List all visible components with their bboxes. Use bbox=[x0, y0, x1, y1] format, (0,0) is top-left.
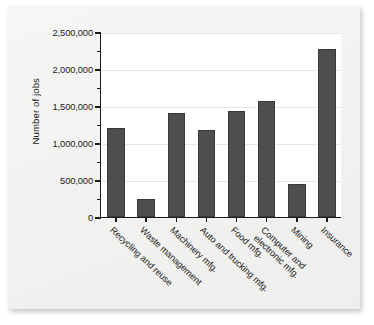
x-tick-label: Insurance bbox=[319, 225, 355, 260]
y-axis-title: Number of jobs bbox=[30, 78, 44, 144]
x-tick-label: Mining bbox=[289, 225, 316, 251]
y-tick-label: 500,000 bbox=[60, 176, 93, 186]
bar bbox=[228, 111, 245, 217]
y-tick-label: 1,000,000 bbox=[53, 139, 93, 149]
bar bbox=[198, 130, 215, 217]
y-tick-label: 1,500,000 bbox=[53, 102, 93, 112]
y-tick-label: 2,500,000 bbox=[53, 28, 93, 38]
plot-area: 2,500,0002,000,0001,500,0001,000,000500,… bbox=[100, 33, 341, 218]
y-tick-label: 0 bbox=[88, 213, 93, 223]
bar-series bbox=[101, 33, 341, 217]
x-axis-labels: Recycling and reuseWaste managementMachi… bbox=[100, 219, 350, 309]
bar bbox=[258, 101, 275, 217]
bar bbox=[168, 113, 185, 217]
chart-canvas: Number of jobs 2,500,0002,000,0001,500,0… bbox=[8, 6, 360, 309]
bar bbox=[137, 199, 154, 217]
bar bbox=[318, 49, 335, 217]
chart-card: Number of jobs 2,500,0002,000,0001,500,0… bbox=[8, 6, 360, 309]
y-tick-label: 2,000,000 bbox=[53, 65, 93, 75]
bar bbox=[288, 184, 305, 217]
bar bbox=[107, 128, 124, 217]
